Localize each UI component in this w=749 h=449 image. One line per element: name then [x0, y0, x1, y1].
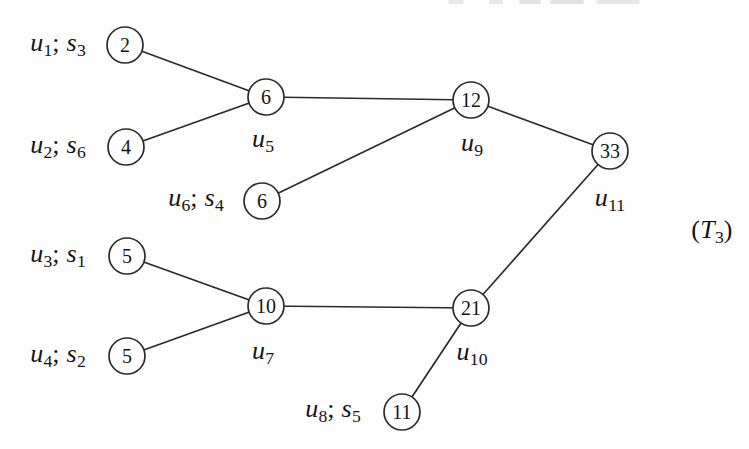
label-u9: u9 [461, 130, 483, 160]
label-u1-s3: u1; s3 [30, 30, 86, 60]
label-u2-s6: u2; s6 [30, 132, 86, 162]
label-tree-tag: (T3) [691, 217, 733, 247]
cropped-text-artifact [448, 0, 464, 4]
cropped-text-artifact [489, 0, 503, 4]
label-u3-s1: u3; s1 [30, 241, 86, 271]
cropped-text-artifact [550, 0, 584, 4]
label-u10: u10 [457, 339, 488, 369]
cropped-text-artifact [596, 0, 640, 4]
label-u4-s2: u4; s2 [30, 341, 86, 371]
label-u5: u5 [252, 126, 274, 156]
cropped-text-artifact [519, 0, 541, 4]
label-u8-s5: u8; s5 [305, 396, 361, 426]
figure-weighted-tree: 2466123355102111 u1; s3u2; s6u5u6; s4u9u… [0, 0, 749, 449]
label-u11: u11 [595, 185, 625, 215]
label-u7: u7 [252, 338, 274, 368]
labels-layer: u1; s3u2; s6u5u6; s4u9u11u3; s1u4; s2u7u… [0, 0, 749, 449]
label-u6-s4: u6; s4 [168, 185, 224, 215]
